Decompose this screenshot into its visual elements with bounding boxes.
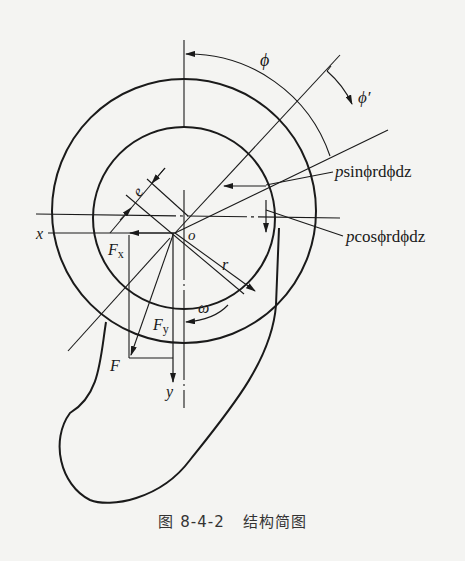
fx-label: Fx: [107, 241, 124, 261]
e-label: e: [129, 183, 147, 199]
pcos-label: pcosϕrdϕdz: [345, 227, 426, 246]
fy-label: Fy: [152, 316, 169, 336]
phi-label: ϕ: [260, 50, 269, 70]
eccentricity-arrow-1: [152, 168, 165, 183]
eccentricity-line-2: [126, 195, 244, 294]
r-label: r: [222, 256, 229, 273]
phi-prime-arc: [327, 71, 352, 104]
psin-p: p: [334, 162, 344, 181]
figure-caption: 图 8-4-2 结构简图: [0, 510, 465, 531]
pcos-p: p: [345, 227, 355, 246]
resultant-force-label: F: [109, 357, 120, 374]
psin-label: psinϕrdϕdz: [334, 162, 412, 181]
figure-title: 结构简图: [243, 513, 307, 531]
bearing-structure-diagram: ϕ ϕ′ psinϕrdϕdz pcosϕrdϕdz e x o Fx r ω …: [0, 0, 465, 561]
pcos-rest: cosϕrdϕdz: [355, 227, 426, 246]
x-axis-label: x: [35, 225, 43, 242]
phi-arc: [186, 54, 330, 156]
psin-leader: [266, 172, 333, 185]
eccentricity-line-1: [147, 179, 188, 216]
psin-rest: sinϕrdϕdz: [344, 162, 412, 181]
omega-label: ω: [198, 299, 209, 316]
radius-arrow: [175, 233, 255, 291]
pcos-leader: [266, 210, 343, 236]
eccentricity-arrow-2: [120, 208, 131, 220]
y-axis-label: y: [164, 383, 174, 401]
phi-prime-label: ϕ′: [358, 88, 371, 107]
bearing-tail-outline: [60, 228, 279, 503]
figure-number: 图 8-4-2: [158, 513, 224, 531]
origin-label: o: [188, 227, 196, 243]
